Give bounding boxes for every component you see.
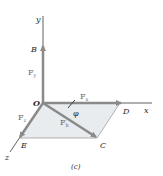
- force-fz-label: Fz: [18, 113, 27, 123]
- force-fy-label: Fy: [28, 68, 37, 79]
- x-axis-label: x: [144, 106, 149, 115]
- point-e-label: E: [20, 141, 27, 150]
- origin-label: O: [33, 98, 40, 108]
- point-b-label: B: [30, 45, 37, 54]
- figure-caption: (c): [71, 163, 81, 171]
- force-fx-label: Fx: [80, 92, 89, 102]
- point-d-label: D: [122, 107, 130, 116]
- z-axis-label: z: [4, 153, 10, 162]
- angle-phi-label: φ: [73, 109, 79, 118]
- y-axis-label: y: [35, 15, 41, 24]
- force-decomposition-diagram: y B Fy Fx Fz Fh O φ D x C E z (c): [0, 0, 163, 176]
- point-c-label: C: [100, 141, 106, 150]
